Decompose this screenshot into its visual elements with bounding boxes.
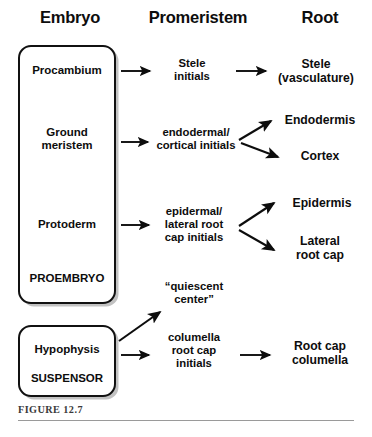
node-endodermal-line2: cortical initials	[156, 139, 235, 151]
node-lateral-root-cap-line1: Lateral	[300, 234, 340, 248]
label-ground-meristem-line1: Ground	[46, 126, 88, 138]
figure-caption-block: FIGURE 12.7	[18, 404, 354, 421]
node-quiescent-center: “quiescent center”	[152, 280, 236, 306]
arrow-endodermal-to-cortex	[241, 143, 278, 157]
node-endodermal-cortical-initials: endodermal/ cortical initials	[150, 126, 242, 152]
node-columella-line3: initials	[176, 357, 212, 369]
node-stele-vasculature: Stele (vasculature)	[266, 57, 366, 85]
arrow-epidermal-to-epidermis	[239, 203, 274, 226]
column-header-root: Root	[278, 8, 362, 27]
label-protoderm: Protoderm	[18, 218, 116, 231]
column-header-promeristem: Promeristem	[138, 8, 258, 27]
label-hypophysis: Hypophysis	[18, 343, 116, 356]
node-stele-line2: (vasculature)	[278, 71, 354, 85]
label-ground-meristem-line2: meristem	[41, 139, 92, 151]
suspensor-box	[18, 325, 116, 397]
node-lateral-root-cap: Lateral root cap	[274, 234, 366, 262]
node-lateral-root-cap-line2: root cap	[296, 248, 344, 262]
node-epidermis: Epidermis	[276, 196, 368, 210]
node-stele-initials-line1: Stele	[178, 57, 205, 69]
proembryo-box	[18, 45, 116, 304]
label-proembryo: PROEMBRYO	[18, 272, 116, 285]
node-cortex: Cortex	[280, 149, 360, 163]
node-columella-root-cap-initials: columella root cap initials	[152, 331, 236, 371]
node-epidermal-line1: epidermal/	[166, 205, 223, 217]
label-suspensor: SUSPENSOR	[18, 372, 116, 385]
label-procambium: Procambium	[18, 64, 116, 77]
node-stele-initials: Stele initials	[152, 57, 232, 83]
label-ground-meristem: Ground meristem	[18, 126, 116, 152]
figure-diagram: Embryo Promeristem Root Procambium Groun…	[0, 0, 372, 437]
arrow-epidermal-to-lateral-root-cap	[239, 230, 274, 250]
arrow-endodermal-to-endodermis	[239, 121, 271, 140]
node-stele-line1: Stele	[301, 57, 330, 71]
node-root-cap-columella-line1: Root cap	[294, 339, 346, 353]
figure-caption: FIGURE 12.7	[18, 404, 354, 415]
column-header-embryo: Embryo	[22, 8, 118, 27]
node-stele-initials-line2: initials	[174, 70, 210, 82]
node-root-cap-columella-line2: columella	[292, 353, 348, 367]
node-root-cap-columella: Root cap columella	[272, 339, 368, 367]
node-epidermal-lateral-root-cap-initials: epidermal/ lateral root cap initials	[152, 205, 236, 245]
node-epidermal-line3: cap initials	[165, 231, 223, 243]
node-columella-line2: root cap	[172, 344, 217, 356]
caption-divider	[18, 420, 354, 421]
node-quiescent-line2: center”	[174, 293, 214, 305]
node-epidermal-line2: lateral root	[165, 218, 223, 230]
node-endodermis: Endodermis	[272, 113, 368, 127]
node-endodermal-line1: endodermal/	[162, 126, 229, 138]
node-quiescent-line1: “quiescent	[165, 280, 223, 292]
node-columella-line1: columella	[168, 331, 220, 343]
